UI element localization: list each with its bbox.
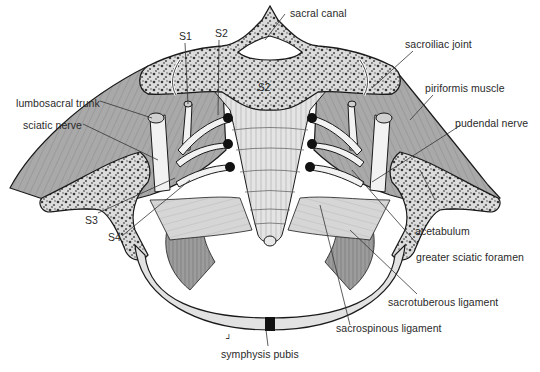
label-sacroiliac-joint: sacroiliac joint xyxy=(405,38,472,50)
label-lumbosacral-trunk: lumbosacral trunk xyxy=(16,97,100,109)
label-sacrospinous-ligament: sacrospinous ligament xyxy=(336,322,442,334)
label-symphysis-pubis: symphysis pubis xyxy=(221,348,299,360)
pelvic-anatomy-diagram: ⅃ sacral canal sacroiliac joint piriform… xyxy=(0,0,540,372)
label-acetabulum: acetabulum xyxy=(415,225,470,237)
artist-mark: ⅃ xyxy=(226,333,230,340)
label-s4: S4 xyxy=(108,231,121,243)
label-sciatic-nerve: sciatic nerve xyxy=(23,119,82,131)
label-sacrotuberous-ligament: sacrotuberous ligament xyxy=(388,296,498,308)
label-s1: S1 xyxy=(179,30,192,42)
anatomy-illustration: ⅃ xyxy=(0,0,540,372)
label-greater-sciatic-foramen: greater sciatic foramen xyxy=(416,251,524,263)
label-sacral-canal: sacral canal xyxy=(290,7,347,19)
label-pudendal-nerve: pudendal nerve xyxy=(455,117,528,129)
label-s2: S2 xyxy=(215,27,228,39)
label-s2-vertebral-body: S2 xyxy=(258,82,270,94)
label-piriformis-muscle: piriformis muscle xyxy=(425,82,505,94)
label-s3: S3 xyxy=(85,214,98,226)
